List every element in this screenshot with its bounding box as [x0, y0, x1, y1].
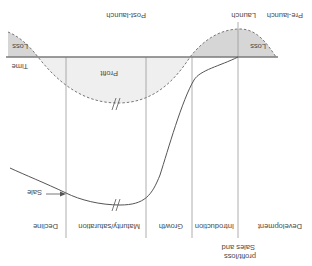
stage-label-maturity: Maturity/saturation [78, 222, 140, 231]
label-pre-launch: Pre-launch [267, 11, 303, 20]
stage-label-introduction: Introduction [195, 222, 234, 231]
axis-label-sales-profit-line1: Sales and [222, 243, 255, 252]
stage-label-decline: Decline [33, 222, 58, 231]
stage-label-development: Development [257, 222, 302, 231]
profit-region [38, 57, 190, 103]
label-loss-decline: Loss [12, 42, 28, 51]
label-sale: Sale [27, 188, 42, 197]
product-life-cycle-diagram: Pre-launch Launch Post-launch Loss Loss … [0, 0, 312, 266]
diagram-canvas: Pre-launch Launch Post-launch Loss Loss … [0, 0, 312, 266]
label-loss-prelaunch: Loss [250, 42, 266, 51]
label-time: Time [12, 62, 28, 71]
label-post-launch: Post-launch [106, 11, 146, 20]
label-launch: Launch [231, 11, 256, 20]
label-profit: Profit [100, 69, 118, 78]
axis-label-sales-profit-line2: profit/loss [224, 252, 256, 261]
stage-label-growth: Growth [159, 222, 183, 231]
